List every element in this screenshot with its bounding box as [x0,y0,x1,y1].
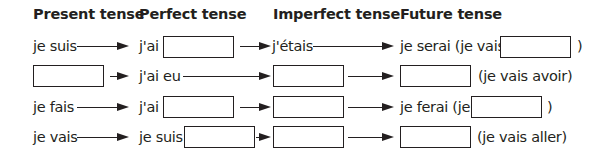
row2-present-blank-input[interactable] [33,65,104,87]
arrow-right-icon [77,132,129,142]
arrow-right-icon [348,102,394,112]
row3-imperfect-blank-input[interactable] [273,96,344,118]
row1-perfect-prefix: j'ai [139,37,159,55]
row2-imperfect-blank-input[interactable] [273,65,344,87]
row1-future-suffix: ) [577,37,582,55]
row1-imperfect: j'étais [272,37,313,55]
arrow-right-icon [77,102,129,112]
row4-perfect-blank-input[interactable] [184,126,255,148]
arrow-right-icon [240,102,271,112]
arrow-right-icon [183,71,271,81]
arrow-right-icon [256,132,271,142]
row3-future-prefix: je ferai (je [400,98,470,116]
arrow-right-icon [240,41,271,51]
row4-imperfect-blank-input[interactable] [273,126,344,148]
row2-future-blank-input[interactable] [400,65,471,87]
row1-perfect-blank-input[interactable] [163,36,234,58]
row1-future-blank-input[interactable] [500,36,571,58]
header-perfect-tense: Perfect tense [139,6,246,22]
row3-perfect-blank-input[interactable] [163,96,234,118]
row3-future-blank-input[interactable] [471,96,542,118]
arrow-right-icon [313,41,394,51]
row3-future-suffix: ) [547,98,552,116]
arrow-right-icon [110,71,129,81]
arrow-right-icon [77,41,129,51]
header-imperfect-tense: Imperfect tense [273,6,400,22]
row4-perfect-prefix: je suis [139,128,183,146]
row4-future-blank-input[interactable] [400,126,471,148]
row3-perfect-prefix: j'ai [139,98,159,116]
arrow-right-icon [348,132,394,142]
row4-future-suffix: (je vais aller) [477,128,567,146]
header-future-tense: Future tense [400,6,502,22]
row1-present: je suis [33,37,77,55]
row2-perfect: j'ai eu [139,67,181,85]
row2-future-suffix: (je vais avoir) [478,67,572,85]
header-present-tense: Present tense [33,6,144,22]
row1-future-prefix: je serai (je vais [400,37,505,55]
row4-present: je vais [33,128,78,146]
arrow-right-icon [348,71,394,81]
row3-present: je fais [33,98,74,116]
